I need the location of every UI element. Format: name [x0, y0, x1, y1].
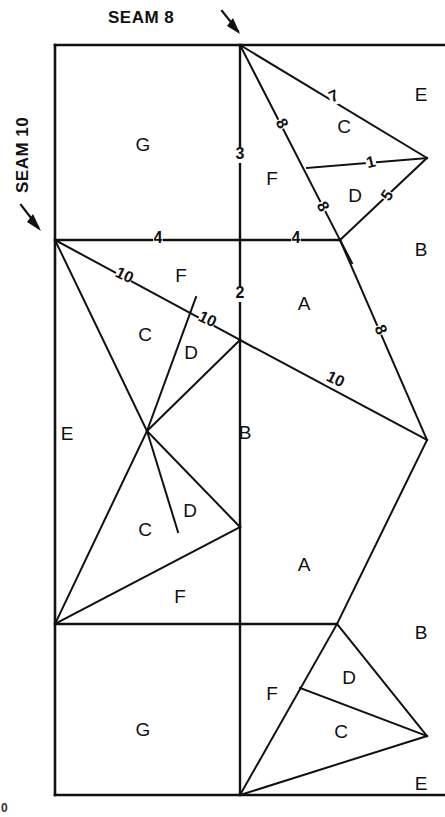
region-label-b-upper: B: [415, 239, 428, 260]
seam-number-n-8-upper: 8: [272, 115, 292, 132]
region-label-f-low: F: [174, 586, 186, 607]
region-label-g-top: G: [136, 134, 151, 155]
region-label-d-mid: D: [184, 342, 198, 363]
region-label-e-bottom: E: [415, 773, 428, 794]
region-label-c-top: C: [337, 116, 351, 137]
region-label-layer: GFCDEBFCDAEBCDFABGFDCE: [61, 84, 428, 794]
region-label-f-top: F: [266, 168, 278, 189]
seam-pattern-diagram: GFCDEBFCDAEBCDFABGFDCE 3781584421010108 …: [0, 0, 445, 817]
region-label-a-mid: A: [298, 293, 311, 314]
seam-number-text: 3: [236, 145, 245, 162]
seam-number-text: 4: [292, 229, 301, 246]
seam-number-n-7: 7: [325, 86, 341, 106]
seam-number-n-3: 3: [235, 145, 245, 163]
region-label-g-bottom: G: [136, 719, 151, 740]
seam-number-n-10-a: 10: [112, 263, 136, 287]
region-label-d-bottom: D: [342, 667, 356, 688]
corner-registration-mark: 0: [1, 801, 8, 815]
region-label-d-low: D: [183, 500, 197, 521]
region-label-e-mid: E: [61, 423, 74, 444]
pattern-drawing: GFCDEBFCDAEBCDFABGFDCE 3781584421010108 …: [0, 0, 445, 817]
seam-8-title: SEAM 8: [108, 8, 174, 27]
seam-number-n-4-right: 4: [291, 229, 301, 247]
region-label-d-top: D: [348, 185, 362, 206]
region-label-e-top: E: [415, 84, 428, 105]
region-label-c-mid: C: [138, 324, 152, 345]
seam-10-title: SEAM 10: [13, 117, 32, 193]
hub-to-bottom-left-vertex: [55, 431, 147, 624]
seam-number-n-8-lower: 8: [313, 198, 333, 215]
region-label-c-bottom: C: [334, 721, 348, 742]
seam-number-n-1: 1: [364, 152, 378, 172]
hub-right-diagonal: [240, 340, 427, 440]
seam-number-n-4-left: 4: [153, 229, 163, 247]
right-upper-edge: [340, 240, 427, 440]
seam-number-text: 4: [154, 229, 163, 246]
region-label-b-lower: B: [415, 622, 428, 643]
seam-number-text: 1: [364, 152, 377, 171]
seam-number-text: 2: [236, 284, 245, 301]
right-lower-edge: [337, 440, 427, 624]
region-label-f-bottom: F: [266, 683, 278, 704]
region-label-c-low: C: [138, 519, 152, 540]
arrow-down-right-icon-left: [21, 205, 41, 231]
region-label-b-mid: B: [239, 422, 252, 443]
arrow-down-right-icon-top: [222, 11, 240, 34]
region-label-f-mid: F: [175, 265, 187, 286]
lower-left-diagonal: [55, 527, 240, 624]
hub-to-cd-divider-upper: [147, 297, 196, 431]
seam-number-n-2: 2: [235, 284, 245, 302]
seam-number-layer: 3781584421010108: [112, 86, 397, 391]
region-label-a-low: A: [298, 554, 311, 575]
